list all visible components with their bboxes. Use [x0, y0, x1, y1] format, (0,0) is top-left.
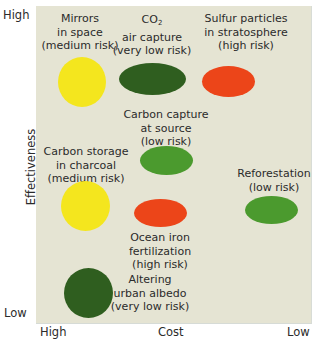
label-altering-urban-albedo: Altering urban albedo (very low risk): [111, 273, 189, 314]
co2-text: CO: [142, 13, 158, 26]
risk-label: (high risk): [129, 258, 191, 272]
label-mirrors-in-space: Mirrors in space (medium risk): [42, 12, 119, 53]
label-line: Carbon storage: [44, 145, 129, 159]
y-axis-low-label: Low: [4, 306, 27, 320]
risk-label: (low risk): [237, 181, 310, 195]
risk-label: (very low risk): [111, 300, 189, 314]
marker-sulfur-particles: [202, 66, 255, 97]
label-line: Reforestation: [237, 167, 310, 181]
x-axis-title: Cost: [158, 325, 184, 339]
marker-carbon-storage-in-charcoal: [61, 181, 110, 231]
x-axis-high-label: High: [40, 325, 66, 339]
marker-co2-air-capture: [119, 63, 186, 95]
label-line: Ocean iron: [129, 231, 191, 245]
marker-mirrors-in-space: [58, 57, 106, 107]
label-sulfur-particles: Sulfur particles in stratosphere (high r…: [204, 12, 287, 53]
label-line: in charcoal: [44, 159, 129, 173]
risk-label: (medium risk): [42, 39, 119, 53]
label-carbon-capture-at-source: Carbon capture at source (low risk): [123, 108, 208, 149]
label-co2-air-capture: CO2 air capture (very low risk): [113, 13, 191, 58]
marker-carbon-capture-at-source: [140, 146, 193, 175]
label-line: air capture: [113, 31, 191, 45]
label-reforestation: Reforestation (low risk): [237, 167, 310, 194]
marker-reforestation: [245, 196, 298, 224]
label-line: in stratosphere: [204, 26, 287, 40]
label-line: Mirrors: [42, 12, 119, 26]
x-axis-low-label: Low: [287, 325, 310, 339]
label-line: Carbon capture: [123, 108, 208, 122]
y-axis-high-label: High: [3, 8, 29, 22]
label-line: fertilization: [129, 245, 191, 259]
risk-label: (very low risk): [113, 44, 191, 58]
y-axis-title: Effectiveness: [24, 122, 38, 212]
marker-altering-urban-albedo: [64, 268, 113, 318]
label-line: Altering: [111, 273, 189, 287]
label-line: in space: [42, 26, 119, 40]
risk-label: (high risk): [204, 39, 287, 53]
subscript-2: 2: [158, 19, 162, 27]
label-carbon-storage-in-charcoal: Carbon storage in charcoal (medium risk): [44, 145, 129, 186]
label-line: CO2: [113, 13, 191, 31]
label-line: Sulfur particles: [204, 12, 287, 26]
label-line: at source: [123, 122, 208, 136]
marker-ocean-iron-fertilization: [134, 199, 187, 227]
label-ocean-iron-fertilization: Ocean iron fertilization (high risk): [129, 231, 191, 272]
label-line: urban albedo: [111, 287, 189, 301]
